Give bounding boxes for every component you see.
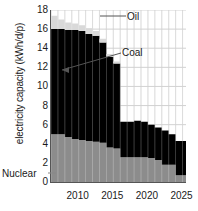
chart-figure: electricity capacity (kWh/d/p) 024681012… <box>0 0 198 211</box>
coal-label: Coal <box>122 47 143 58</box>
nuclear-label: Nuclear <box>2 168 36 179</box>
oil-label: Oil <box>127 11 139 22</box>
annotation-leader-lines <box>0 0 198 211</box>
